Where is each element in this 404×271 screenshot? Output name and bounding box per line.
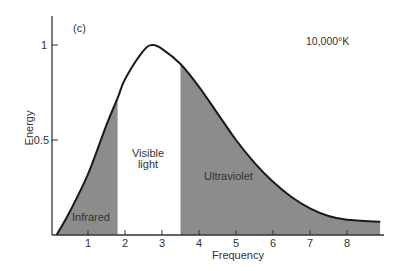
x-tick-label: 4 [196,237,202,249]
x-tick-label: 5 [233,237,239,249]
region-label-visible-2: light [138,158,158,170]
x-tick-label: 8 [344,237,350,249]
shaded-regions [57,45,381,235]
panel-label: (c) [73,22,86,34]
x-tick-label: 7 [307,237,313,249]
x-axis-label: Frequency [212,249,264,261]
x-tick-label: 2 [122,237,128,249]
y-tick-label-1: 1 [41,39,47,51]
x-tick-label: 6 [270,237,276,249]
temperature-label: 10,000°K [306,35,349,47]
region-label-infrared: Infrared [72,211,110,223]
y-axis-label: Energy [23,110,35,145]
region-label-ultraviolet: Ultraviolet [204,170,253,182]
x-tick-label: 1 [85,237,91,249]
y-tick-label-05: 0.5 [34,134,49,146]
x-tick-label: 3 [159,237,165,249]
blackbody-chart: 1 0.5 12345678 (c) 10,000°K Infrared Vis… [0,0,404,271]
